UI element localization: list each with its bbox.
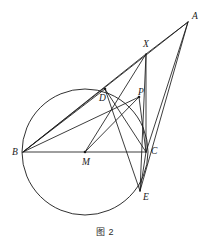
point-label-c: C [151,146,158,156]
point-labels-layer: AXDPBMCE [12,11,198,202]
vertex-dot-m [84,151,87,154]
point-label-x: X [142,39,150,49]
point-label-b: B [12,147,18,157]
segment-A-X [146,22,188,54]
point-label-p: P [137,87,144,97]
geometry-figure: AXDPBMCE 图 2 [0,0,210,244]
segment-M-P [85,97,139,152]
geometry-canvas: AXDPBMCE [0,0,210,244]
figure-caption: 图 2 [0,225,210,238]
segment-A-C [146,22,188,152]
segment-D-E [105,89,140,191]
point-label-e: E [142,192,149,202]
segment-B-D [23,89,105,152]
point-label-m: M [81,157,91,167]
vertex-dot-d [104,88,107,91]
segments-layer [23,22,188,191]
point-label-a: A [191,11,198,21]
point-label-d: D [98,93,106,103]
segment-P-C [139,97,146,152]
